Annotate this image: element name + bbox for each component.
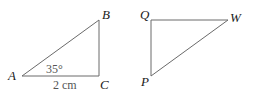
vertex-label-b: B: [102, 7, 110, 22]
vertex-label-w: W: [230, 10, 242, 25]
diagram-canvas: A B C 35° 2 cm Q W P: [0, 0, 253, 93]
triangle-pqw: Q W P: [140, 7, 242, 89]
vertex-label-q: Q: [140, 7, 150, 22]
vertex-label-c: C: [100, 77, 109, 92]
side-length-label: 2 cm: [53, 78, 77, 92]
vertex-label-p: P: [140, 74, 149, 89]
angle-label: 35°: [46, 62, 63, 76]
triangle-abc: A B C 35° 2 cm: [7, 7, 110, 92]
vertex-label-a: A: [7, 68, 16, 83]
triangle-pqw-shape: [151, 20, 228, 76]
